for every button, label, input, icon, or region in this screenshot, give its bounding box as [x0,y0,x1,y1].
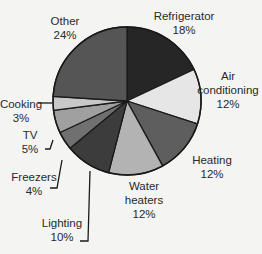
slice-name: Lighting [42,217,82,229]
pie-slices [53,27,201,175]
slice-name: Heating [192,154,232,166]
slice-label-lighting: Lighting10% [42,217,82,243]
slice-label-tv: TV5% [22,129,39,155]
slice-name: Cooking [0,98,42,110]
slice-percent: 4% [26,185,43,197]
slice-label-cooking: Cooking3% [0,98,42,124]
slice-percent: 3% [13,112,30,124]
slice-name: Other [51,15,80,27]
slice-percent: 12% [216,98,239,110]
slice-name: TV [23,129,38,141]
slice-name: Water [129,180,159,192]
slice-percent: 12% [200,168,223,180]
slice-name: Air [221,70,235,82]
slice-percent: 12% [132,208,155,220]
leader-line-lighting [80,171,90,241]
slice-percent: 5% [22,143,39,155]
slice-percent: 24% [53,29,76,41]
slice-label-other: Other24% [51,15,80,41]
slice-percent: 18% [172,24,195,36]
slice-label-air-conditioning: Airconditioning12% [197,70,258,110]
slice-label-heating: Heating12% [192,154,232,180]
slice-name: heaters [125,194,164,206]
slice-percent: 10% [50,231,73,243]
pie-chart: Refrigerator18%Airconditioning12%Heating… [0,0,262,254]
slice-name: Refrigerator [154,10,215,22]
slice-name: Freezers [11,171,57,183]
slice-label-water-heaters: Waterheaters12% [125,180,164,220]
leader-line-tv [45,140,53,149]
slice-label-freezers: Freezers4% [11,171,57,197]
slice-name: conditioning [197,84,258,96]
slice-label-refrigerator: Refrigerator18% [154,10,215,36]
